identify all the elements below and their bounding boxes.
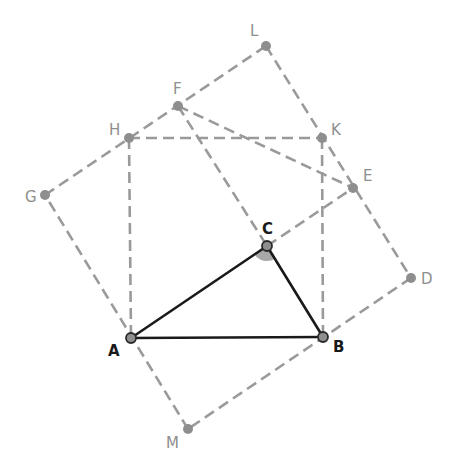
point-e[interactable]: [348, 183, 358, 193]
label-k: K: [331, 121, 342, 139]
point-labels: ABCDEFGHKLM: [25, 22, 433, 452]
point-g[interactable]: [40, 190, 50, 200]
dashed-segment-kb: [322, 138, 323, 337]
label-d: D: [421, 270, 433, 288]
dashed-construction-lines: [45, 46, 411, 429]
dashed-segment-fe: [178, 106, 353, 188]
label-a: A: [108, 342, 120, 360]
point-f[interactable]: [173, 101, 183, 111]
point-l[interactable]: [261, 41, 271, 51]
dashed-segment-ha: [129, 138, 131, 338]
point-h[interactable]: [124, 133, 134, 143]
triangle-abc: [131, 246, 323, 338]
label-c: C: [262, 220, 273, 238]
dashed-segment-gl: [45, 46, 266, 195]
label-f: F: [173, 80, 182, 98]
label-e: E: [363, 167, 372, 185]
dashed-segment-ld: [266, 46, 411, 278]
label-b: B: [333, 338, 344, 356]
side-bc: [267, 246, 323, 337]
label-l: L: [250, 22, 259, 40]
point-m[interactable]: [183, 424, 193, 434]
dashed-segment-ce: [267, 188, 353, 246]
dashed-segment-mg: [45, 195, 188, 429]
point-d[interactable]: [406, 273, 416, 283]
label-g: G: [25, 188, 37, 206]
point-k[interactable]: [317, 133, 327, 143]
dashed-segment-fc: [178, 106, 267, 246]
point-c[interactable]: [262, 241, 272, 251]
point-a[interactable]: [126, 333, 136, 343]
geometry-diagram: ABCDEFGHKLM: [0, 0, 455, 463]
side-ab: [131, 337, 323, 338]
points: [40, 41, 416, 434]
label-h: H: [109, 121, 120, 139]
point-b[interactable]: [318, 332, 328, 342]
label-m: M: [166, 434, 179, 452]
side-ca: [131, 246, 267, 338]
